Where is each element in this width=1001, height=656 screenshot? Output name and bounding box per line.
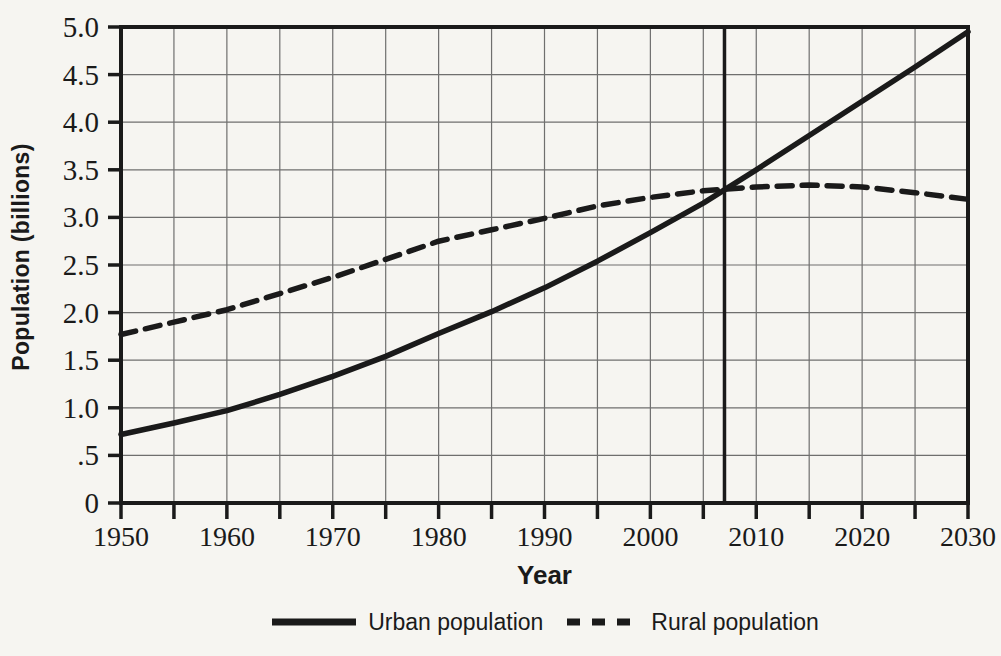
rural-line-swatch-icon xyxy=(565,616,641,628)
svg-text:.5: .5 xyxy=(77,439,99,471)
svg-text:4.5: 4.5 xyxy=(63,59,99,91)
svg-text:2.0: 2.0 xyxy=(63,297,99,329)
svg-text:1980: 1980 xyxy=(411,521,467,552)
svg-text:2010: 2010 xyxy=(728,521,784,552)
chart-plot: 1950196019701980199020002010202020300.51… xyxy=(0,0,1001,656)
y-axis-title: Population (billions) xyxy=(8,143,35,370)
legend-item-rural: Rural population xyxy=(565,609,819,636)
gridlines xyxy=(121,27,968,503)
svg-text:1950: 1950 xyxy=(93,521,149,552)
axis-ticks xyxy=(108,27,968,519)
x-tick-labels: 195019601970198019902000201020202030 xyxy=(93,521,996,552)
svg-text:4.0: 4.0 xyxy=(63,106,99,138)
legend-label-rural: Rural population xyxy=(651,609,819,636)
svg-text:2.5: 2.5 xyxy=(63,249,99,281)
x-axis-title: Year xyxy=(121,560,968,591)
svg-text:1.0: 1.0 xyxy=(63,392,99,424)
svg-text:1970: 1970 xyxy=(305,521,361,552)
legend: Urban population Rural population xyxy=(121,604,968,640)
svg-text:5.0: 5.0 xyxy=(63,11,99,43)
svg-text:2020: 2020 xyxy=(834,521,890,552)
svg-text:1960: 1960 xyxy=(199,521,255,552)
svg-text:2000: 2000 xyxy=(622,521,678,552)
legend-label-urban: Urban population xyxy=(368,609,543,636)
svg-text:2030: 2030 xyxy=(940,521,996,552)
svg-text:1990: 1990 xyxy=(517,521,573,552)
population-trend-figure: 1950196019701980199020002010202020300.51… xyxy=(0,0,1001,656)
svg-text:3.0: 3.0 xyxy=(63,201,99,233)
legend-item-urban: Urban population xyxy=(270,609,543,636)
y-tick-labels: 0.51.01.52.02.53.03.54.04.55.0 xyxy=(63,11,99,519)
urban-line-swatch-icon xyxy=(270,616,358,628)
svg-text:0: 0 xyxy=(85,487,100,519)
svg-text:1.5: 1.5 xyxy=(63,344,99,376)
svg-text:3.5: 3.5 xyxy=(63,154,99,186)
